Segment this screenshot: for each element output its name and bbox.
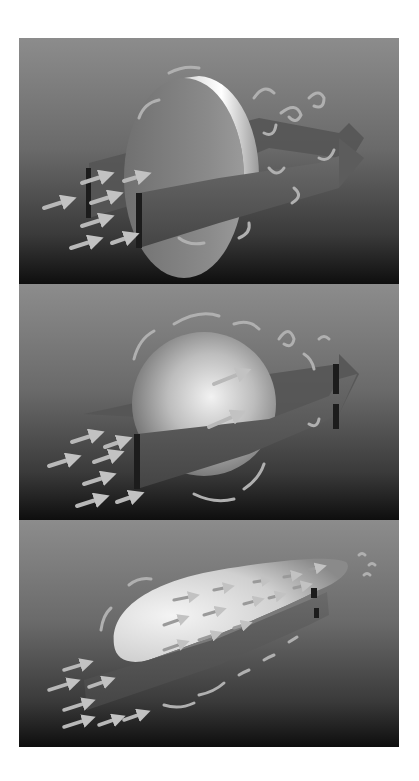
panel-streamlined-body <box>19 520 399 747</box>
sphere-illustration <box>19 284 399 520</box>
panel-flat-plate <box>19 38 399 284</box>
flat-plate-illustration <box>19 38 399 284</box>
panel-sphere <box>19 284 399 520</box>
streamlined-body-illustration <box>19 520 399 747</box>
